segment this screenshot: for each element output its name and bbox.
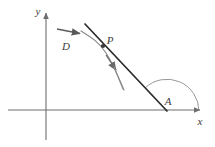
point-label-p: P bbox=[106, 34, 114, 46]
angle-label-a: A bbox=[164, 95, 172, 107]
point-p-marker bbox=[101, 44, 105, 48]
tangent-direction-arrow-tail bbox=[114, 67, 123, 89]
direction-label-d: D bbox=[61, 40, 70, 52]
geometry-figure: y x D P A bbox=[0, 0, 215, 147]
x-axis-label: x bbox=[197, 115, 203, 127]
figure-canvas: y x D P A bbox=[0, 0, 215, 147]
y-axis-label: y bbox=[35, 5, 41, 17]
tangent-line bbox=[85, 24, 167, 111]
direction-arrow bbox=[57, 29, 80, 34]
curve bbox=[81, 31, 124, 90]
